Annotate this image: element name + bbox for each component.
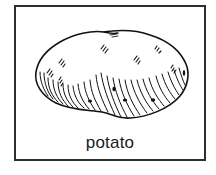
potato-outline [36, 30, 188, 118]
card-label: potato [14, 133, 206, 153]
